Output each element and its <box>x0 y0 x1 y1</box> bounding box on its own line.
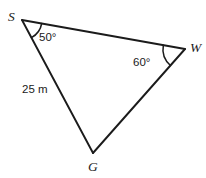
triangle-figure: S W G 50° 60° 25 m <box>0 0 206 178</box>
vertex-label-s: S <box>8 9 15 24</box>
vertex-label-w: W <box>190 40 203 55</box>
angle-arc-w <box>163 45 170 65</box>
vertex-label-g: G <box>88 159 98 174</box>
side-label-sg: 25 m <box>22 83 48 95</box>
angle-label-s: 50° <box>39 31 56 43</box>
angle-label-w: 60° <box>133 56 150 68</box>
triangle-diagram-svg: S W G 50° 60° 25 m <box>0 0 206 178</box>
